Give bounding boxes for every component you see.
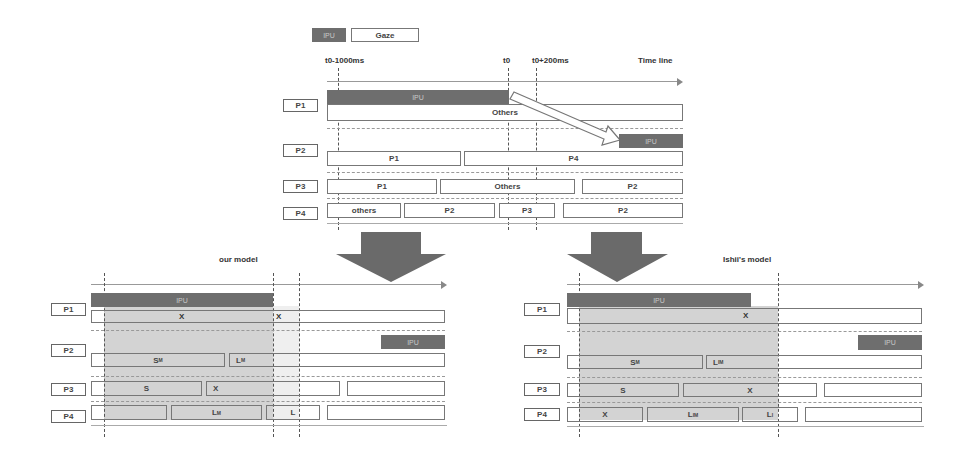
p1-ipu-bar: IPU <box>327 90 509 104</box>
row-divider <box>567 377 922 378</box>
timeline-arrow <box>91 284 445 285</box>
p2-sm-subscript: M <box>159 357 163 363</box>
p4-gaze-x: X <box>567 407 643 422</box>
p4-lm-subscript: M <box>217 410 221 416</box>
time-label-t0: t0 <box>503 56 510 65</box>
p3-gaze-p2: P2 <box>582 179 683 194</box>
p2-gaze-sm: SM <box>567 355 703 369</box>
time-line-label: Time line <box>638 56 673 65</box>
row-divider <box>91 376 445 377</box>
p4-gaze-l: L <box>266 405 320 420</box>
p4-gaze-empty-last <box>805 407 922 422</box>
p2-lm-subscript: M <box>241 357 245 363</box>
participant-label-p3: P3 <box>51 383 86 396</box>
participant-label-p4: P4 <box>283 207 318 220</box>
p4-gaze-p3: P3 <box>499 203 555 218</box>
row-divider <box>567 402 922 403</box>
participant-label-p2: P2 <box>51 344 86 357</box>
p2-gaze-p4: P4 <box>464 151 683 166</box>
p3-gaze-others: Others <box>440 179 575 194</box>
row-divider <box>327 128 683 129</box>
p2-gaze-sm: SM <box>91 353 225 367</box>
participant-label-p4: P4 <box>51 410 86 423</box>
p4-gaze-li: LI <box>742 407 798 422</box>
timeline-arrow <box>567 284 922 285</box>
p4-lim-subscript: IM <box>693 412 699 418</box>
row-divider <box>327 198 683 199</box>
p2-sm-subscript: M <box>636 359 640 365</box>
p1-x-after: X <box>276 312 281 321</box>
p1-gaze-others: Others <box>327 104 683 121</box>
p4-gaze-lm: LM <box>171 405 262 420</box>
row-divider <box>91 330 445 331</box>
p2-ipu-bar: IPU <box>381 335 445 349</box>
legend-gaze-swatch: Gaze <box>351 28 419 42</box>
participant-label-p2: P2 <box>524 345 560 358</box>
p2-gaze-lim: LIM <box>706 355 922 369</box>
p3-gaze-x: X <box>206 381 340 396</box>
ishii-model-title: Ishii's model <box>723 255 771 264</box>
p3-gaze-empty <box>347 381 445 396</box>
p3-gaze-empty <box>824 383 922 397</box>
time-label-t0-minus-1000: t0-1000ms <box>325 56 364 65</box>
legend-ipu-swatch: IPU <box>312 28 346 42</box>
p1-ipu-bar: IPU <box>567 293 751 307</box>
p4-gaze-p2: P2 <box>404 203 495 218</box>
our-model-title: our model <box>219 255 258 264</box>
row-divider <box>91 401 445 402</box>
p3-gaze-x: X <box>683 383 817 397</box>
turn-transfer-arrow-icon <box>508 88 623 150</box>
p4-gaze-empty-last <box>327 405 445 420</box>
time-label-t0-plus-200: t0+200ms <box>532 56 569 65</box>
participant-label-p1: P1 <box>524 303 560 316</box>
timeline-arrow <box>327 81 681 82</box>
row-bottom-line <box>567 426 924 427</box>
row-divider <box>567 331 922 332</box>
p1-ipu-bar: IPU <box>91 293 273 307</box>
down-arrow-left-icon <box>333 232 449 282</box>
p4-gaze-others: others <box>327 203 401 218</box>
p3-gaze-p1: P1 <box>327 179 437 194</box>
p3-gaze-s: S <box>567 383 679 397</box>
p2-gaze-p1: P1 <box>327 151 461 166</box>
p4-gaze-empty-first <box>91 405 167 420</box>
participant-label-p1: P1 <box>51 303 86 316</box>
p1-gaze-row <box>91 310 445 323</box>
p2-ipu-bar: IPU <box>619 134 683 148</box>
row-bottom-line <box>91 425 447 426</box>
p3-gaze-s: S <box>91 381 202 396</box>
p1-x: X <box>743 311 748 320</box>
down-arrow-right-icon <box>565 232 671 282</box>
p2-lim-subscript: IM <box>718 359 724 365</box>
participant-label-p1: P1 <box>283 99 318 112</box>
row-bottom-line <box>327 223 683 224</box>
p4-gaze-p2-second: P2 <box>563 203 683 218</box>
p4-li-subscript: I <box>772 412 773 418</box>
p1-x-inside: X <box>179 312 184 321</box>
participant-label-p3: P3 <box>283 180 318 193</box>
p2-ipu-bar: IPU <box>858 335 922 350</box>
participant-label-p3: P3 <box>524 383 560 396</box>
participant-label-p4: P4 <box>524 408 560 421</box>
p4-gaze-lim: LIM <box>647 407 739 422</box>
p2-gaze-lm: LM <box>229 353 445 367</box>
row-divider <box>327 172 683 173</box>
participant-label-p2: P2 <box>283 144 318 157</box>
